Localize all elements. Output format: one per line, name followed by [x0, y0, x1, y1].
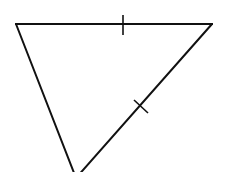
triangle-sides	[16, 24, 212, 172]
triangle-diagram	[0, 0, 231, 172]
side-right	[76, 24, 212, 172]
congruence-ticks	[123, 15, 148, 113]
side-left	[16, 24, 76, 172]
